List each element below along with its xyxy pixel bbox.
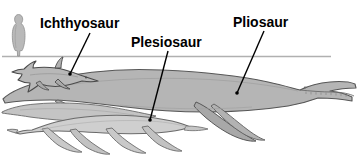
label-plesiosaur: Plesiosaur bbox=[131, 34, 202, 50]
plesiosaur-body bbox=[7, 115, 208, 154]
label-pliosaur: Pliosaur bbox=[233, 14, 289, 30]
leader-dot-plesiosaur bbox=[148, 118, 152, 122]
leader-line-ichthyosaur bbox=[70, 33, 90, 74]
leader-dot-ichthyosaur bbox=[68, 72, 72, 76]
marine-reptile-size-comparison-figure: Ichthyosaur Plesiosaur Pliosaur bbox=[0, 0, 357, 160]
label-ichthyosaur: Ichthyosaur bbox=[40, 15, 120, 31]
illustration-canvas: Ichthyosaur Plesiosaur Pliosaur bbox=[0, 0, 357, 160]
leader-dot-pliosaur bbox=[235, 91, 239, 95]
human-scale-silhouette bbox=[12, 15, 25, 57]
